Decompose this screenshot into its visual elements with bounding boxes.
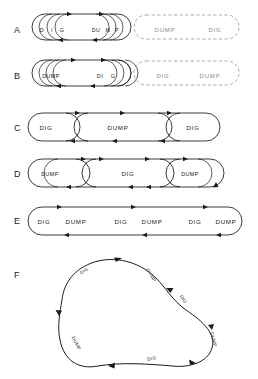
row-a-word-4: DU (92, 27, 101, 33)
row-c-word-1: DIG (39, 124, 52, 131)
row-label-f: F (14, 270, 20, 280)
row-a-group: D I G DU M P DUMP DIG (32, 12, 239, 43)
row-d-arrow-top-3 (145, 157, 150, 162)
row-a-arc-l2 (47, 14, 60, 40)
row-f-word-1: DIG (79, 266, 89, 275)
row-a-word-3: G (60, 27, 65, 33)
row-e-arrow-bot-2 (142, 233, 147, 238)
row-label-e: E (14, 216, 20, 226)
row-e-arrow-top-1 (57, 205, 62, 210)
row-a-arrow-top-1 (67, 12, 72, 17)
row-b-ghost-word-2: DUMP (200, 73, 221, 79)
row-f-word-5: DIG (147, 355, 157, 362)
row-b-ghost-word-1: DIG (156, 73, 169, 79)
row-e-word-5: DIG (188, 218, 201, 225)
figure-root: A B C D E F D I G (0, 0, 258, 379)
row-b-word-3: G (111, 73, 116, 79)
row-e-word-4: DUMP (141, 218, 162, 225)
row-b-word-1: DUMP (42, 73, 60, 79)
row-f-arrow-left (56, 310, 63, 316)
row-e-word-1: DIG (37, 218, 50, 225)
row-label-a: A (14, 25, 20, 35)
row-a-arrow-top-2 (99, 12, 104, 17)
row-c-group: DIG DUMP DIG (28, 111, 220, 144)
row-label-c: C (14, 123, 21, 133)
row-a-arrow-bot-2 (92, 38, 97, 43)
row-d-arrow-top-2 (99, 157, 104, 162)
row-a-ghost-word-1: DUMP (155, 27, 176, 33)
row-e-loop (28, 207, 242, 235)
row-d-word-2: DIG (121, 170, 134, 177)
row-c-arrow-top-3 (167, 111, 172, 116)
row-c-word-3: DIG (186, 124, 199, 131)
row-c-arrow-bot-3 (160, 139, 165, 144)
row-e-arrow-top-3 (203, 205, 208, 210)
row-d-word-1: DUMP (41, 171, 59, 177)
row-f-word-6: DUMP (71, 336, 82, 351)
row-d-arrow-bot-1 (66, 185, 71, 190)
row-e-arrow-top-2 (131, 205, 136, 210)
row-a-ghost-loop (134, 15, 239, 39)
row-b-group: DUMP DI G DIG DUMP (32, 58, 239, 89)
row-d-word-3: DUMP (181, 171, 199, 177)
row-d-arrow-bot-3 (146, 185, 151, 190)
row-d-arrow-top-4 (183, 157, 188, 162)
row-d-arc-1 (76, 159, 90, 187)
row-a-ghost-word-2: DIG (208, 27, 221, 33)
row-d-arc-2 (82, 159, 96, 187)
row-b-arrow-top-2 (101, 58, 106, 63)
row-f-arrow-right (208, 324, 214, 330)
row-b-ghost-loop (134, 61, 239, 85)
row-e-arrow-bot-1 (64, 233, 69, 238)
row-e-word-3: DIG (114, 218, 127, 225)
row-a-word-2: I (51, 27, 53, 33)
row-a-word-5: M (106, 27, 111, 33)
row-f-word-3: DIG (179, 294, 188, 304)
dig-dump-diagram: A B C D E F D I G (0, 0, 258, 379)
row-e-word-6: DUMP (215, 218, 236, 225)
row-a-arrow-bot-1 (58, 38, 63, 43)
row-b-word-2: DI (97, 73, 103, 79)
row-e-word-2: DUMP (65, 218, 86, 225)
row-f-blob-outline (59, 260, 213, 367)
row-d-arrow-bot-2 (128, 185, 133, 190)
row-d-arc-4 (166, 159, 180, 187)
row-f-arrow-bottom (108, 363, 115, 369)
row-b-arrow-bot-2 (90, 84, 95, 89)
row-d-group: DUMP DIG DUMP (28, 157, 224, 190)
row-d-arrow-top-1 (81, 157, 86, 162)
row-c-arrow-bot-2 (112, 139, 117, 144)
row-d-arc-3 (160, 159, 174, 187)
row-f-group: DIG DUMP DIG DUMP DIG DUMP (56, 258, 218, 369)
row-c-arrow-top-2 (120, 111, 125, 116)
row-e-group: DIG DUMP DIG DUMP DIG DUMP (28, 205, 242, 238)
row-b-arrow-bot-1 (56, 84, 61, 89)
row-b-arrow-top-1 (71, 58, 76, 63)
row-a-word-6: P (115, 27, 119, 33)
row-d-arc-r1 (198, 159, 212, 187)
row-c-word-2: DUMP (107, 124, 128, 131)
row-label-d: D (14, 169, 21, 179)
row-a-word-1: D (40, 27, 44, 33)
row-f-word-2: DUMP (145, 268, 157, 283)
row-f-word-4: DUMP (209, 332, 217, 348)
row-e-arrow-bot-3 (216, 233, 221, 238)
row-label-b: B (14, 71, 20, 81)
row-c-arrow-top-1 (75, 111, 80, 116)
